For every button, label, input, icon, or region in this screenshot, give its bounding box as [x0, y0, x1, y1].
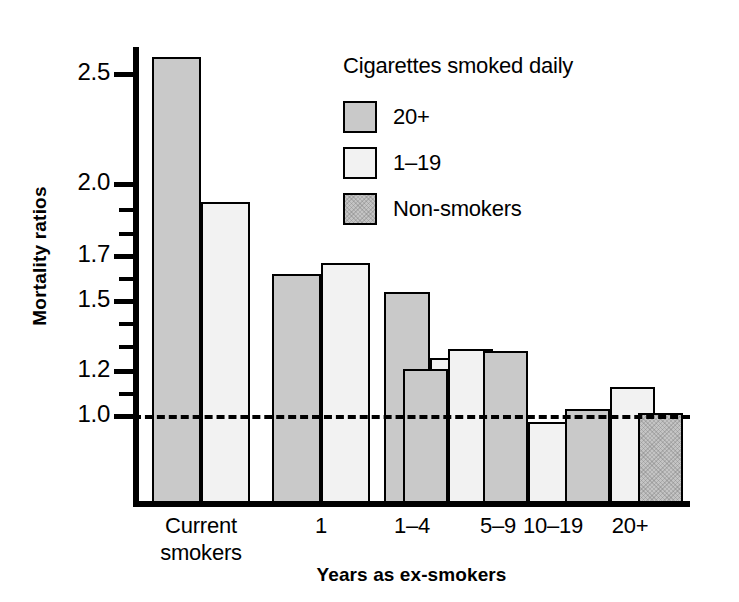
- legend: Cigarettes smoked daily 20+ 1–19 Non-smo…: [343, 53, 643, 239]
- x-axis-label-current-smokers: Current smokers: [131, 512, 271, 566]
- x-axis-title: Years as ex-smokers: [133, 564, 690, 586]
- y-axis-label-1-0: 1.0: [40, 400, 110, 428]
- x-axis-label-20plus: 20+: [560, 512, 700, 539]
- y-axis-label-1-5: 1.5: [40, 285, 110, 313]
- y-tick-1-0: [114, 414, 134, 419]
- bar-1-20plus: [272, 274, 321, 503]
- bar-5-9-20plus: [403, 369, 448, 503]
- bar-1-1to19: [321, 263, 370, 503]
- x-axis-label-line1: Current: [131, 512, 271, 539]
- bar-non-smokers-reference: [638, 413, 683, 503]
- bar-10-19-20plus: [483, 351, 528, 503]
- y-tick-minor: [119, 322, 134, 326]
- bar-current-smokers-20plus: [152, 57, 201, 503]
- y-tick-minor: [119, 232, 134, 236]
- x-axis-line: [133, 501, 690, 507]
- y-tick-1-2: [114, 369, 134, 374]
- y-axis-label-1-7: 1.7: [40, 240, 110, 268]
- y-tick-minor: [119, 277, 134, 281]
- bar-current-smokers-1to19: [201, 202, 250, 503]
- y-tick-minor: [119, 208, 134, 212]
- y-tick-1-7: [114, 254, 134, 259]
- y-tick-2-5: [114, 72, 134, 77]
- y-tick-minor: [119, 345, 134, 349]
- x-axis-label-line1: 20+: [560, 512, 700, 539]
- x-axis-label-line2: smokers: [131, 539, 271, 566]
- mortality-ratio-bar-chart: Mortality ratios 2.5 2.0 1.7 1.5 1.2 1.0: [0, 0, 739, 602]
- bar-20plus-20plus: [565, 409, 610, 503]
- legend-item-1to19: 1–19: [343, 147, 643, 179]
- y-axis-label-2-5: 2.5: [40, 58, 110, 86]
- legend-item-non-smokers: Non-smokers: [343, 193, 643, 225]
- y-tick-minor: [119, 392, 134, 396]
- y-axis-label-2-0: 2.0: [40, 168, 110, 196]
- legend-label-20plus: 20+: [393, 104, 430, 130]
- legend-label-non-smokers: Non-smokers: [393, 196, 522, 222]
- legend-title: Cigarettes smoked daily: [343, 53, 643, 79]
- y-tick-2-0: [114, 182, 134, 187]
- legend-swatch-non-smokers: [343, 193, 377, 225]
- legend-item-20plus: 20+: [343, 101, 643, 133]
- legend-swatch-20plus: [343, 101, 377, 133]
- reference-line-1-0: [133, 415, 690, 419]
- y-axis-line: [133, 47, 139, 505]
- legend-label-1to19: 1–19: [393, 150, 441, 176]
- y-axis-label-1-2: 1.2: [40, 355, 110, 383]
- y-tick-1-5: [114, 299, 134, 304]
- legend-swatch-1to19: [343, 147, 377, 179]
